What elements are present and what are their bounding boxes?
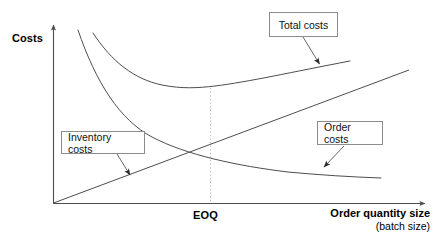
callout-order-costs: Order costs — [317, 121, 383, 145]
callout-inventory-costs: Inventory costs — [61, 131, 145, 154]
callout-leaders — [117, 37, 344, 175]
leader-total-costs — [303, 37, 320, 64]
callout-total-costs: Total costs — [269, 12, 338, 37]
eoq-marker-label: EOQ — [193, 210, 218, 221]
callout-total-costs-label: Total costs — [279, 19, 329, 31]
eoq-chart-figure: Costs Order quantity size (batch size) E… — [0, 0, 447, 245]
callout-order-costs-label: Order costs — [324, 121, 376, 145]
series-total-costs-curve — [93, 33, 350, 88]
leader-order-costs — [324, 146, 344, 167]
x-axis-title-group: Order quantity size (batch size) — [243, 208, 430, 232]
y-axis-title: Costs — [12, 33, 43, 44]
series-order-costs-curve — [78, 30, 381, 178]
callout-inventory-costs-label: Inventory costs — [68, 131, 138, 155]
axis-group — [53, 25, 425, 204]
leader-inventory-costs — [117, 154, 130, 175]
x-axis-subtitle: (batch size) — [243, 221, 430, 232]
x-axis-title: Order quantity size — [243, 208, 430, 219]
